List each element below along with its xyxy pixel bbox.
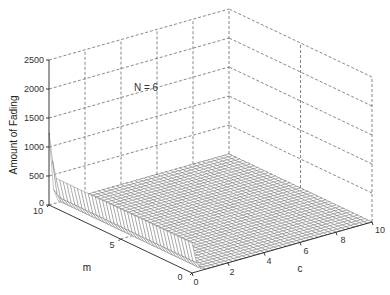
fading-surface: [49, 133, 372, 269]
c-tick-0: 0: [193, 277, 198, 287]
z-tick-1500: 1500: [24, 113, 44, 123]
c-tick-8: 8: [340, 235, 345, 245]
c-tick-4: 4: [266, 256, 271, 266]
c-axis-label: c: [298, 263, 303, 274]
z-tick-1000: 1000: [24, 142, 44, 152]
z-tick-2500: 2500: [24, 55, 44, 65]
m-tick-5: 5: [109, 240, 114, 250]
c-tick-6: 6: [303, 246, 308, 256]
n-annotation: N = 6: [134, 82, 159, 93]
z-tick-2000: 2000: [24, 84, 44, 94]
z-tick-500: 500: [29, 171, 44, 181]
m-tick-0: 0: [177, 272, 182, 282]
c-tick-10: 10: [375, 225, 385, 235]
surface-plot: 2500 2000 1500 1000 500 0 10 5 0 0 2 4 6…: [0, 0, 390, 295]
m-axis-label: m: [83, 262, 91, 273]
c-tick-2: 2: [229, 267, 234, 277]
m-tick-10: 10: [33, 206, 43, 216]
z-axis-label: Amount of Fading: [8, 96, 19, 175]
